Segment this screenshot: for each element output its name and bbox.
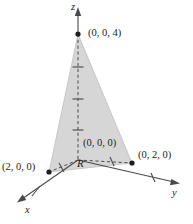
point-label-z-intercept: (0, 0, 4) <box>88 28 121 39</box>
y-axis-label: y <box>172 188 177 199</box>
z-axis-arrowhead <box>75 7 81 16</box>
triangular-region-R <box>49 34 132 172</box>
vertex-dot-x-intercept <box>46 169 51 174</box>
z-axis-label: z <box>71 2 75 13</box>
point-label-y-intercept: (0, 2, 0) <box>138 150 171 161</box>
figure-container: z x y (0, 0, 4) (2, 0, 0) (0, 2, 0) (0, … <box>0 0 193 224</box>
vertex-dot-z-intercept <box>75 31 80 36</box>
y-axis-arrowhead <box>170 179 180 185</box>
x-axis-label: x <box>25 205 30 216</box>
point-label-origin: (0, 0, 0) <box>83 138 116 149</box>
point-label-x-intercept: (2, 0, 0) <box>2 162 35 173</box>
vertex-dot-y-intercept <box>129 160 134 165</box>
region-label-R: R <box>77 158 84 169</box>
x-axis-arrowhead <box>17 195 26 203</box>
